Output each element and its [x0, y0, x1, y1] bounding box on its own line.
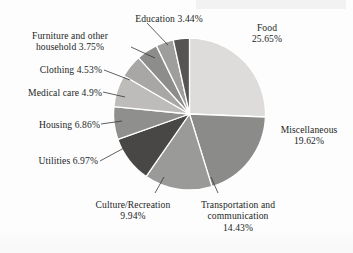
leader-line-education — [147, 23, 168, 45]
slice-label-furniture-line1: Furniture and other — [8, 30, 132, 41]
slice-label-food: Food 25.65% — [235, 22, 299, 45]
slice-label-food-line1: Food — [235, 22, 299, 33]
slice-label-culture-recreation: Culture/Recreation 9.94% — [78, 199, 188, 222]
slice-label-furniture: Furniture and other household 3.75% — [8, 30, 132, 53]
slice-label-medical-care-text: Medical care 4.9% — [28, 87, 102, 98]
slice-label-utilities: Utilities 6.97% — [16, 155, 98, 166]
slice-label-miscellaneous-line2: 19.62% — [266, 135, 352, 146]
slice-label-medical-care: Medical care 4.9% — [4, 87, 102, 98]
slice-label-education-text: Education 3.44% — [135, 13, 203, 24]
pie-chart-figure: Education 3.44% Furniture and other hous… — [0, 0, 353, 253]
leader-line-utilities — [100, 148, 124, 161]
pie-slices — [114, 38, 266, 190]
slice-label-food-line2: 25.65% — [235, 33, 299, 44]
slice-label-transportation-line2: communication — [182, 210, 294, 221]
slice-label-clothing: Clothing 4.53% — [14, 64, 102, 75]
slice-label-culture-line2: 9.94% — [78, 210, 188, 221]
slice-label-education: Education 3.44% — [118, 13, 220, 24]
slice-label-miscellaneous: Miscellaneous 19.62% — [266, 124, 352, 147]
slice-label-miscellaneous-line1: Miscellaneous — [266, 124, 352, 135]
slice-label-housing: Housing 6.86% — [14, 119, 100, 130]
slice-label-clothing-text: Clothing 4.53% — [40, 64, 102, 75]
slice-label-transportation-line1: Transportation and — [182, 199, 294, 210]
slice-label-utilities-text: Utilities 6.97% — [38, 155, 98, 166]
slice-label-transportation: Transportation and communication 14.43% — [182, 199, 294, 233]
slice-label-housing-text: Housing 6.86% — [39, 119, 100, 130]
slice-label-transportation-line3: 14.43% — [182, 222, 294, 233]
slice-label-culture-line1: Culture/Recreation — [78, 199, 188, 210]
slice-label-furniture-line2: household 3.75% — [8, 41, 132, 52]
pie-slice — [190, 38, 266, 117]
